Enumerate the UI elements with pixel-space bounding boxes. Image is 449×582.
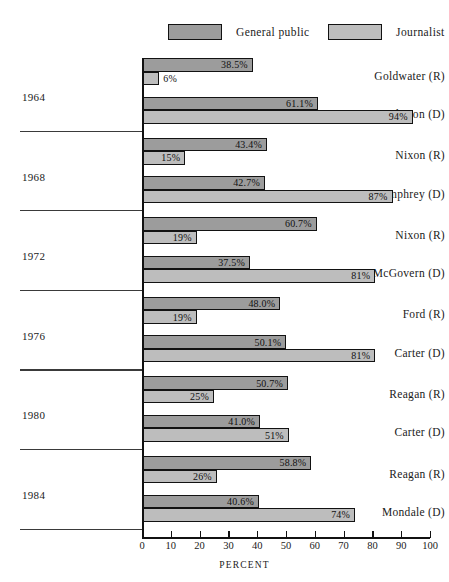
x-tick xyxy=(401,531,402,538)
bar-general-public: 38.5% xyxy=(142,58,253,72)
year-label-1968: 1968 xyxy=(22,171,45,183)
chart-legend: General public Journalist xyxy=(0,10,449,40)
bar-value-label: 81% xyxy=(351,350,374,361)
x-tick xyxy=(228,531,229,538)
bar-general-public: 48.0% xyxy=(142,297,280,311)
bar-value-label: 42.7% xyxy=(233,177,264,188)
bar-general-public: 43.4% xyxy=(142,138,267,152)
x-tick-label: 100 xyxy=(422,540,438,551)
x-tick-label: 50 xyxy=(281,540,292,551)
group-separator xyxy=(20,290,142,291)
bar-value-label: 50.7% xyxy=(256,378,287,389)
candidate-label: Nixon (R) xyxy=(307,149,449,161)
candidate-label: Ford (R) xyxy=(307,308,449,320)
bar-general-public: 41.0% xyxy=(142,415,260,429)
x-tick-label: 60 xyxy=(310,540,321,551)
x-tick-label: 0 xyxy=(139,540,144,551)
candidate-label: Reagan (R) xyxy=(307,468,449,480)
year-label-1984: 1984 xyxy=(22,489,45,501)
bar-journalist: 25% xyxy=(142,390,214,404)
bar-journalist: 74% xyxy=(142,508,355,522)
bar-value-label: 41.0% xyxy=(228,416,259,427)
bar-value-label: 48.0% xyxy=(248,298,279,309)
bar-value-label: 50.1% xyxy=(254,337,285,348)
x-tick xyxy=(286,531,287,538)
bar-journalist: 19% xyxy=(142,231,197,245)
candidate-label: Reagan (R) xyxy=(307,388,449,400)
bar-value-label: 15% xyxy=(161,152,184,163)
bar-value-label: 37.5% xyxy=(218,257,249,268)
bar-general-public: 58.8% xyxy=(142,456,311,470)
bar-value-label: 60.7% xyxy=(285,218,316,229)
bar-value-label: 6% xyxy=(158,73,177,84)
legend-item-general-public: General public xyxy=(168,24,310,40)
legend-swatch-general-public xyxy=(168,24,222,40)
legend-item-journalist: Journalist xyxy=(328,24,445,40)
bar-general-public: 42.7% xyxy=(142,176,265,190)
bar-value-label: 81% xyxy=(351,270,374,281)
bar-value-label: 40.6% xyxy=(227,496,258,507)
x-tick-label: 30 xyxy=(223,540,234,551)
bar-general-public: 50.1% xyxy=(142,335,286,349)
x-axis-title: PERCENT xyxy=(0,560,449,570)
year-label-1964: 1964 xyxy=(22,91,45,103)
x-tick xyxy=(257,531,258,538)
bar-journalist: 15% xyxy=(142,151,185,165)
bar-journalist: 87% xyxy=(142,190,393,204)
group-separator xyxy=(20,369,142,370)
x-tick-label: 10 xyxy=(166,540,177,551)
bar-journalist: 6% xyxy=(142,72,159,86)
bar-general-public: 37.5% xyxy=(142,256,250,270)
x-tick-label: 90 xyxy=(396,540,407,551)
bar-value-label: 25% xyxy=(190,391,213,402)
x-tick-label: 70 xyxy=(338,540,349,551)
bar-general-public: 61.1% xyxy=(142,97,318,111)
x-tick xyxy=(171,531,172,538)
x-tick xyxy=(430,531,431,538)
vote-share-bar-chart: General public Journalist 1964Goldwater … xyxy=(0,0,449,582)
bar-journalist: 94% xyxy=(142,110,413,124)
bar-journalist: 19% xyxy=(142,310,197,324)
year-label-1980: 1980 xyxy=(22,409,45,421)
bar-value-label: 19% xyxy=(173,232,196,243)
x-tick xyxy=(372,531,373,538)
year-label-1976: 1976 xyxy=(22,330,45,342)
x-tick-label: 80 xyxy=(367,540,378,551)
bar-journalist: 81% xyxy=(142,349,375,363)
x-tick xyxy=(142,531,143,538)
bar-value-label: 87% xyxy=(369,191,392,202)
bar-value-label: 19% xyxy=(173,312,196,323)
candidate-label: Nixon (R) xyxy=(307,229,449,241)
bar-value-label: 94% xyxy=(389,111,412,122)
bar-general-public: 40.6% xyxy=(142,495,259,509)
year-label-1972: 1972 xyxy=(22,250,45,262)
x-tick-label: 20 xyxy=(194,540,205,551)
y-axis-line xyxy=(142,58,144,538)
bar-general-public: 50.7% xyxy=(142,376,288,390)
bar-value-label: 74% xyxy=(331,509,354,520)
bar-value-label: 51% xyxy=(265,430,288,441)
bar-value-label: 26% xyxy=(193,471,216,482)
group-separator xyxy=(20,449,142,450)
legend-label-journalist: Journalist xyxy=(396,26,445,38)
bar-general-public: 60.7% xyxy=(142,217,317,231)
bar-value-label: 43.4% xyxy=(235,139,266,150)
bar-value-label: 38.5% xyxy=(221,59,252,70)
legend-label-general-public: General public xyxy=(236,26,310,38)
x-tick-label: 40 xyxy=(252,540,263,551)
candidate-label: Carter (D) xyxy=(307,426,449,438)
group-separator xyxy=(20,529,142,530)
candidate-label: Goldwater (R) xyxy=(307,70,449,82)
group-separator xyxy=(20,131,142,132)
bar-value-label: 58.8% xyxy=(280,457,311,468)
x-tick xyxy=(200,531,201,538)
bar-journalist: 81% xyxy=(142,269,375,283)
x-tick xyxy=(315,531,316,538)
bar-journalist: 51% xyxy=(142,428,289,442)
x-tick xyxy=(344,531,345,538)
bar-journalist: 26% xyxy=(142,470,217,484)
legend-swatch-journalist xyxy=(328,24,382,40)
group-separator xyxy=(20,210,142,211)
bar-value-label: 61.1% xyxy=(286,98,317,109)
